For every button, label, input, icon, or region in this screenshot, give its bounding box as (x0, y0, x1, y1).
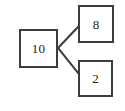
node-whole-label: 10 (32, 42, 45, 55)
node-part-1-label: 8 (93, 18, 100, 31)
node-part-2-label: 2 (92, 72, 99, 85)
number-bond-diagram: 10 8 2 (0, 0, 125, 111)
node-whole-10: 10 (19, 29, 58, 68)
node-part-2: 2 (78, 60, 113, 97)
connector-whole-to-eight (58, 27, 78, 48)
node-part-8: 8 (78, 5, 114, 43)
connector-whole-to-two (58, 48, 79, 74)
